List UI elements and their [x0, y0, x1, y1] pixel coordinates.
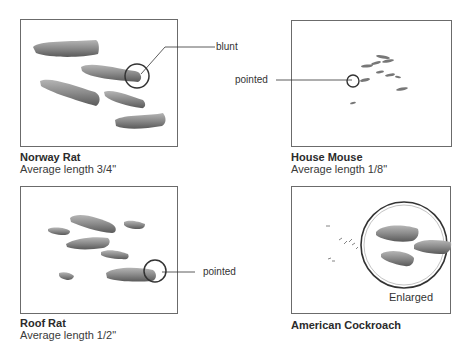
dropping: [81, 65, 141, 82]
american-cockroach-caption: American Cockroach: [291, 319, 401, 331]
norway-rat-length: Average length 3/4": [20, 163, 116, 175]
dropping: [70, 215, 116, 233]
dropping: [66, 237, 110, 249]
norway-rat-caption: Norway Rat Average length 3/4": [20, 151, 116, 175]
dropping: [59, 272, 74, 280]
cockroach-dropping-enlarged: [414, 240, 451, 254]
house-mouse-title: House Mouse: [291, 151, 387, 163]
pointed-label-roof-rat: pointed: [203, 266, 236, 277]
norway-rat-title: Norway Rat: [20, 151, 116, 163]
dropping: [48, 228, 70, 235]
blunt-callout: [125, 47, 215, 88]
roof-rat-title: Roof Rat: [20, 317, 116, 329]
roof-rat-length: Average length 1/2": [20, 329, 116, 341]
roof-rat-caption: Roof Rat Average length 1/2": [20, 317, 116, 341]
dropping: [101, 250, 129, 259]
cockroach-dropping-enlarged: [376, 226, 419, 242]
roof-rat-droppings: [48, 215, 156, 281]
dropping: [33, 40, 99, 57]
dropping: [104, 91, 145, 108]
cockroach-dropping-enlarged: [381, 251, 414, 266]
enlarged-circle: [361, 202, 451, 288]
dropping: [115, 113, 166, 129]
cockroach-small-droppings: [326, 226, 358, 261]
enlarged-label: Enlarged: [389, 291, 433, 303]
blunt-label: blunt: [216, 41, 238, 52]
house-mouse-caption: House Mouse Average length 1/8": [291, 151, 387, 175]
dropping: [40, 80, 100, 106]
american-cockroach-title: American Cockroach: [291, 319, 401, 331]
house-mouse-length: Average length 1/8": [291, 163, 387, 175]
pointed-callout-mouse: [276, 75, 359, 87]
dropping: [124, 221, 145, 229]
pointed-label-mouse: pointed: [235, 74, 268, 85]
